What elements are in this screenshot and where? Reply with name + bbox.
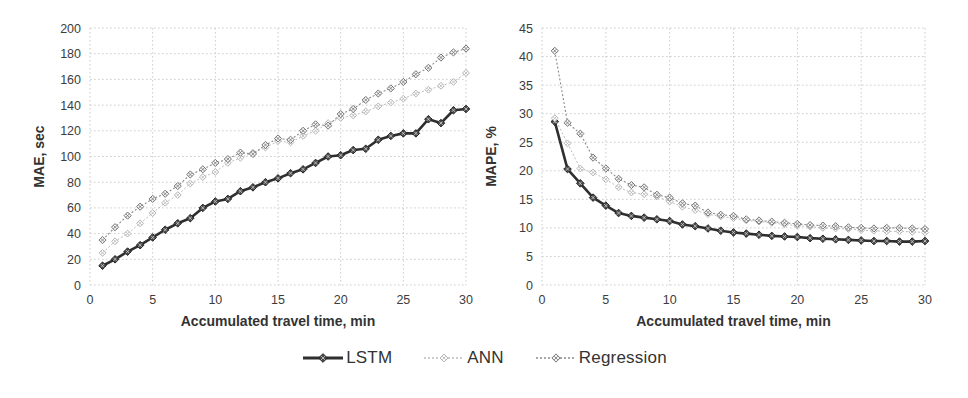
chart-canvas: 051015202530051015202530354045Accumulate… <box>484 0 968 336</box>
svg-text:30: 30 <box>918 293 932 307</box>
svg-text:20: 20 <box>67 253 81 267</box>
svg-text:20: 20 <box>790 293 804 307</box>
svg-text:15: 15 <box>727 293 741 307</box>
svg-text:60: 60 <box>67 201 81 215</box>
svg-text:MAPE, %: MAPE, % <box>484 126 499 187</box>
charts-row: 051015202530020406080100120140160180200A… <box>0 0 968 336</box>
svg-text:25: 25 <box>396 293 410 307</box>
mae-chart: 051015202530020406080100120140160180200A… <box>0 0 484 336</box>
svg-text:5: 5 <box>149 293 156 307</box>
legend-item-lstm: LSTM <box>301 348 392 368</box>
svg-text:100: 100 <box>60 150 81 164</box>
svg-text:140: 140 <box>60 99 81 113</box>
svg-text:15: 15 <box>519 193 533 207</box>
svg-text:40: 40 <box>519 50 533 64</box>
regression-line-marker-icon <box>534 350 578 366</box>
legend-label-lstm: LSTM <box>346 348 392 368</box>
svg-text:45: 45 <box>519 22 533 36</box>
svg-text:20: 20 <box>519 164 533 178</box>
svg-text:200: 200 <box>60 22 81 36</box>
lstm-line-marker-icon <box>301 350 345 366</box>
legend-swatch-canvas <box>534 350 578 366</box>
svg-text:15: 15 <box>271 293 285 307</box>
legend-item-ann: ANN <box>422 348 504 368</box>
figure-container: 051015202530020406080100120140160180200A… <box>0 0 968 398</box>
svg-text:30: 30 <box>519 107 533 121</box>
svg-text:40: 40 <box>67 227 81 241</box>
ann-line-marker-icon <box>422 350 466 366</box>
mape-chart: 051015202530051015202530354045Accumulate… <box>484 0 968 336</box>
chart-legend: LSTM ANN Regression <box>0 348 968 368</box>
svg-text:MAE, sec: MAE, sec <box>31 125 47 187</box>
svg-text:160: 160 <box>60 73 81 87</box>
svg-text:0: 0 <box>539 293 546 307</box>
svg-text:10: 10 <box>519 221 533 235</box>
legend-label-ann: ANN <box>467 348 504 368</box>
svg-text:25: 25 <box>854 293 868 307</box>
svg-text:120: 120 <box>60 124 81 138</box>
svg-text:0: 0 <box>87 293 94 307</box>
svg-text:5: 5 <box>526 250 533 264</box>
svg-text:30: 30 <box>459 293 473 307</box>
svg-text:0: 0 <box>74 279 81 293</box>
svg-text:10: 10 <box>663 293 677 307</box>
legend-swatch-canvas <box>422 350 466 366</box>
svg-text:80: 80 <box>67 176 81 190</box>
svg-text:180: 180 <box>60 47 81 61</box>
svg-text:5: 5 <box>602 293 609 307</box>
legend-swatch-canvas <box>301 350 345 366</box>
legend-item-regression: Regression <box>534 348 667 368</box>
svg-text:20: 20 <box>334 293 348 307</box>
svg-text:35: 35 <box>519 79 533 93</box>
svg-text:25: 25 <box>519 136 533 150</box>
svg-text:Accumulated travel time, min: Accumulated travel time, min <box>181 313 376 329</box>
svg-text:Accumulated travel time, min: Accumulated travel time, min <box>636 313 831 329</box>
svg-text:0: 0 <box>526 279 533 293</box>
svg-text:10: 10 <box>208 293 222 307</box>
chart-canvas: 051015202530020406080100120140160180200A… <box>0 0 484 336</box>
legend-label-regression: Regression <box>579 348 667 368</box>
